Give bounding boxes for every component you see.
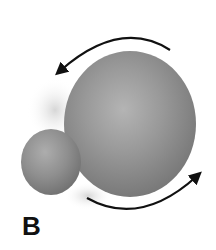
- panel-label: B: [22, 213, 41, 239]
- large-sphere: [64, 51, 196, 197]
- small-sphere: [21, 129, 81, 195]
- figure-panel: B: [0, 0, 216, 250]
